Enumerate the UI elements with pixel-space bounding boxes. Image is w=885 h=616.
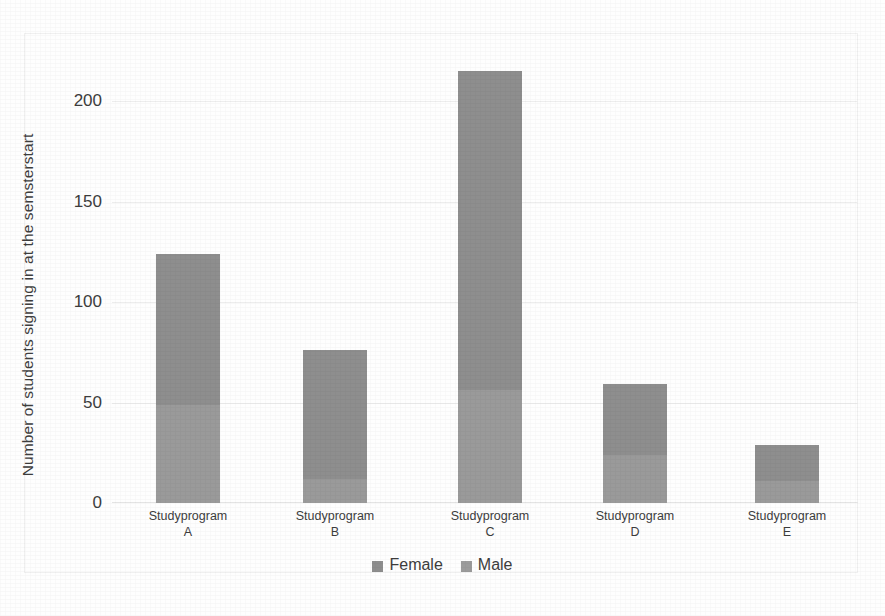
x-axis-label-letter: D bbox=[560, 524, 710, 540]
bar-segment-male[interactable] bbox=[458, 390, 522, 503]
x-axis-label-name: Studyprogram bbox=[451, 509, 530, 523]
x-axis-label-e: StudyprogramE bbox=[712, 508, 862, 540]
legend-item-male[interactable]: Male bbox=[461, 556, 513, 574]
x-axis-label-d: StudyprogramD bbox=[560, 508, 710, 540]
x-axis-label-a: StudyprogramA bbox=[113, 508, 263, 540]
legend-swatch-icon bbox=[461, 561, 472, 572]
x-axis-label-b: StudyprogramB bbox=[260, 508, 410, 540]
bar-group-a[interactable] bbox=[156, 254, 220, 503]
y-axis-title: Number of students signing in at the sem… bbox=[19, 25, 37, 585]
bar-segment-female[interactable] bbox=[458, 71, 522, 391]
x-axis-label-name: Studyprogram bbox=[149, 509, 228, 523]
bar-group-b[interactable] bbox=[303, 350, 367, 503]
legend-swatch-icon bbox=[372, 561, 383, 572]
bar-group-d[interactable] bbox=[603, 384, 667, 503]
bar-segment-female[interactable] bbox=[603, 384, 667, 454]
bar-chart: Number of students signing in at the sem… bbox=[0, 0, 885, 616]
bar-group-e[interactable] bbox=[755, 445, 819, 503]
bar-segment-male[interactable] bbox=[303, 479, 367, 503]
legend-label: Female bbox=[389, 556, 442, 574]
bar-segment-male[interactable] bbox=[755, 481, 819, 503]
x-axis-label-letter: C bbox=[415, 524, 565, 540]
x-axis-label-name: Studyprogram bbox=[296, 509, 375, 523]
bar-segment-female[interactable] bbox=[303, 350, 367, 479]
x-axis-label-c: StudyprogramC bbox=[415, 508, 565, 540]
bars-layer bbox=[112, 101, 858, 503]
bar-segment-male[interactable] bbox=[156, 405, 220, 503]
x-axis-label-name: Studyprogram bbox=[596, 509, 675, 523]
x-axis-label-letter: B bbox=[260, 524, 410, 540]
x-axis-label-letter: E bbox=[712, 524, 862, 540]
bar-segment-female[interactable] bbox=[156, 254, 220, 405]
bar-group-c[interactable] bbox=[458, 71, 522, 503]
bar-segment-female[interactable] bbox=[755, 445, 819, 481]
chart-legend: FemaleMale bbox=[0, 556, 885, 574]
legend-label: Male bbox=[478, 556, 513, 574]
legend-item-female[interactable]: Female bbox=[372, 556, 442, 574]
x-axis-label-name: Studyprogram bbox=[748, 509, 827, 523]
x-axis-label-letter: A bbox=[113, 524, 263, 540]
bar-segment-male[interactable] bbox=[603, 455, 667, 503]
x-axis-category-labels: StudyprogramAStudyprogramBStudyprogramCS… bbox=[112, 508, 858, 552]
